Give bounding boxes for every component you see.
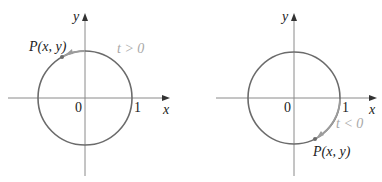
point-p	[313, 137, 317, 141]
arc-arrow-icon	[316, 131, 324, 139]
unit-label: 1	[342, 101, 349, 115]
y-axis-arrow-icon	[82, 13, 88, 21]
panel-negative-t: y x 0 1 P(x, y) t < 0	[191, 0, 382, 182]
param-label: t > 0	[117, 42, 144, 56]
x-axis-label: x	[163, 103, 169, 117]
y-axis-label: y	[73, 10, 79, 24]
x-axis-label: x	[369, 103, 375, 117]
y-axis-label: y	[282, 10, 288, 24]
origin-label: 0	[284, 101, 291, 115]
point-p	[60, 55, 64, 59]
x-axis-arrow-icon	[369, 95, 377, 101]
unit-circle-diagram-left	[0, 0, 191, 182]
panel-positive-t: y x 0 1 P(x, y) t > 0	[0, 0, 191, 182]
x-axis-arrow-icon	[162, 95, 170, 101]
param-label: t < 0	[336, 117, 363, 131]
origin-label: 0	[75, 101, 82, 115]
unit-circle-diagram-right	[191, 0, 382, 182]
point-label: P(x, y)	[313, 145, 350, 159]
y-axis-arrow-icon	[291, 13, 297, 21]
unit-label: 1	[134, 101, 141, 115]
point-label: P(x, y)	[29, 40, 66, 54]
